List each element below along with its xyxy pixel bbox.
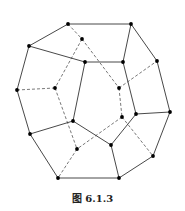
hidden-edge-A-D [68,24,82,39]
edge-C-H [17,46,29,90]
hidden-edge-J-K [119,88,122,117]
vertex-Q [75,147,79,151]
visible-edges [17,24,170,178]
hidden-edge-J-G [119,61,157,88]
vertex-K [120,115,124,119]
vertex-H [15,88,19,92]
vertex-L [134,112,138,116]
hidden-edge-D-I [55,39,82,88]
vertices [15,22,172,180]
vertex-M [168,110,172,114]
vertex-G [155,59,159,63]
vertex-J [117,86,121,90]
vertex-O [28,132,32,136]
hidden-edges [17,24,157,178]
edge-H-O [17,90,30,134]
edge-B-F [123,24,131,62]
vertex-A [66,22,70,26]
vertex-P [109,143,113,147]
vertex-F [121,60,125,64]
edge-O-N [30,121,73,134]
hidden-edge-K-R [122,117,153,156]
edge-O-S [30,134,58,178]
edge-F-L [123,62,136,114]
vertex-N [71,119,75,123]
vertex-R [151,154,155,158]
edge-G-M [157,61,170,112]
edge-M-R [153,112,170,156]
edge-R-T [119,156,153,178]
vertex-E [83,60,87,64]
vertex-C [27,44,31,48]
edge-B-G [131,24,157,61]
vertex-S [56,176,60,180]
hidden-edge-H-I [17,88,55,90]
vertex-I [53,86,57,90]
figure-caption: 图 6.1.3 [0,190,185,205]
vertex-T [117,176,121,180]
edge-A-C [29,24,68,46]
hidden-edge-K-Q [77,117,122,149]
edge-L-M [136,112,170,114]
vertex-D [80,37,84,41]
edge-E-N [73,62,85,121]
vertex-B [129,22,133,26]
dodecahedron-graph [0,0,185,190]
edge-P-T [111,145,119,178]
hidden-edge-D-J [82,39,119,88]
edge-N-P [73,121,111,145]
hidden-edge-Q-S [58,149,77,178]
